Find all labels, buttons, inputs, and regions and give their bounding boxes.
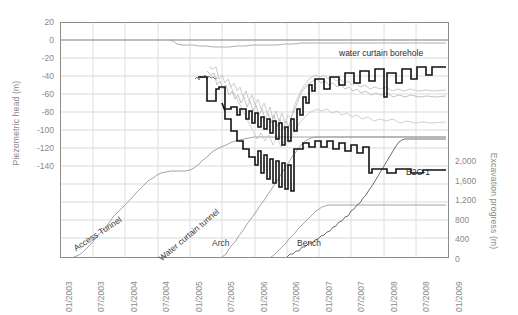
x-tick-5: 07/2005 [227,281,236,312]
y-tick-left-6: -100 [26,126,54,135]
x-tick-2: 01/2004 [130,281,139,312]
series-water-curtain-tunnel [222,137,446,257]
y-tick-left-0: 20 [26,18,54,27]
annotation-bench: Bench [297,238,321,248]
annotation-water-curtain-borehole: water curtain borehole [339,48,423,58]
y-tick-right-2: 1,200 [455,196,485,205]
series-water-curtain-borehole [198,67,446,145]
y-tick-right-1: 1,600 [455,177,485,186]
x-tick-0: 01/2003 [65,281,74,312]
series-shallow-piezometer [169,40,446,47]
y-tick-right-4: 400 [455,235,485,244]
y-tick-left-8: -140 [26,162,54,171]
y-tick-left-7: -120 [26,144,54,153]
y-tick-right-0: 2,000 [455,157,485,166]
y-axis-title-left: Piezometric head (m) [11,63,21,183]
y-tick-left-3: -40 [26,72,54,81]
x-tick-3: 07/2004 [162,281,171,312]
chart-root: Piezometric head (m) Excavation progress… [0,0,518,315]
x-tick-8: 01/2007 [325,281,334,312]
y-tick-left-2: -20 [26,54,54,63]
y-tick-left-4: -60 [26,90,54,99]
x-tick-1: 07/2003 [97,281,106,312]
y-tick-right-3: 800 [455,216,485,225]
x-tick-11: 07/2008 [422,281,431,312]
series-arch [271,205,446,257]
x-tick-10: 01/2008 [390,281,399,312]
x-tick-12: 01/2009 [455,281,464,312]
x-tick-7: 07/2006 [292,281,301,312]
x-tick-9: 07/2007 [357,281,366,312]
annotation-arch: Arch [212,238,229,248]
y-tick-left-1: 0 [26,36,54,45]
y-axis-title-right: Excavation progress (m) [489,141,499,261]
series-gray-bundle-a [207,71,446,129]
y-tick-left-5: -80 [26,108,54,117]
x-tick-4: 01/2005 [195,281,204,312]
annotation-b2c-1: B2C-1 [406,167,430,177]
x-tick-6: 01/2006 [260,281,269,312]
y-tick-right-5: 0 [455,255,485,264]
